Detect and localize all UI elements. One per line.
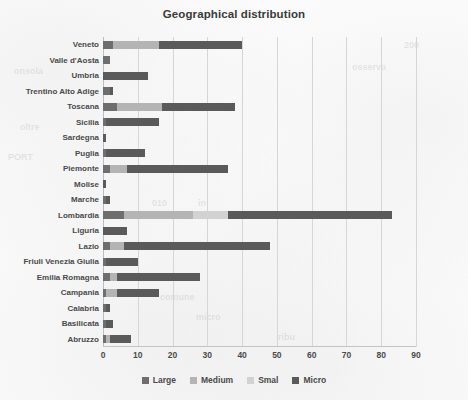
plot-area — [103, 37, 416, 347]
x-tick-label-60: 60 — [307, 350, 316, 360]
stacked-bar[interactable] — [103, 134, 106, 142]
bar-row — [103, 254, 416, 270]
bar-row — [103, 285, 416, 301]
bar-segment-micro[interactable] — [103, 180, 106, 188]
x-tick-label-50: 50 — [272, 350, 281, 360]
bar-segment-medium[interactable] — [124, 211, 194, 219]
bar-segment-micro[interactable] — [106, 196, 109, 204]
stacked-bar[interactable] — [103, 87, 113, 95]
bar-segment-large[interactable] — [103, 103, 117, 111]
bar-segment-micro[interactable] — [162, 103, 235, 111]
bar-row — [103, 208, 416, 224]
bar-row — [103, 332, 416, 348]
bar-segment-micro[interactable] — [159, 41, 242, 49]
x-tick-label-20: 20 — [168, 350, 177, 360]
bar-row — [103, 130, 416, 146]
legend-label: Medium — [201, 375, 233, 385]
bar-segment-micro[interactable] — [127, 165, 228, 173]
x-tick-label-40: 40 — [237, 350, 246, 360]
legend-item-large[interactable]: Large — [142, 375, 176, 385]
y-axis-label: Sicilia — [0, 118, 99, 127]
bar-segment-micro[interactable] — [106, 149, 144, 157]
stacked-bar[interactable] — [103, 227, 127, 235]
stacked-bar[interactable] — [103, 196, 110, 204]
bar-segment-medium[interactable] — [110, 242, 124, 250]
bar-segment-large[interactable] — [103, 87, 110, 95]
bar-row — [103, 192, 416, 208]
bar-segment-large[interactable] — [103, 165, 110, 173]
bar-row — [103, 316, 416, 332]
stacked-bar[interactable] — [103, 118, 159, 126]
bar-segment-medium[interactable] — [110, 273, 117, 281]
bar-segment-micro[interactable] — [228, 211, 391, 219]
bar-segment-micro[interactable] — [106, 304, 109, 312]
bar-segment-micro[interactable] — [117, 273, 200, 281]
bar-segment-micro[interactable] — [124, 242, 270, 250]
bar-segment-large[interactable] — [103, 211, 124, 219]
stacked-bar[interactable] — [103, 289, 159, 297]
legend-swatch-icon — [292, 377, 299, 384]
stacked-bar[interactable] — [103, 72, 148, 80]
bar-row — [103, 177, 416, 193]
stacked-bar[interactable] — [103, 242, 270, 250]
stacked-bar[interactable] — [103, 180, 106, 188]
bar-segment-medium[interactable] — [106, 289, 116, 297]
bar-row — [103, 99, 416, 115]
bar-row — [103, 270, 416, 286]
x-tick-label-80: 80 — [376, 350, 385, 360]
legend-swatch-icon — [190, 377, 197, 384]
bar-segment-micro[interactable] — [106, 320, 113, 328]
bar-segment-medium[interactable] — [117, 103, 162, 111]
bar-row — [103, 146, 416, 162]
bar-segment-micro[interactable] — [117, 289, 159, 297]
stacked-bar[interactable] — [103, 320, 113, 328]
legend-swatch-icon — [247, 377, 254, 384]
stacked-bar[interactable] — [103, 211, 392, 219]
y-axis-label: Umbria — [0, 71, 99, 80]
x-tick-label-70: 70 — [342, 350, 351, 360]
y-axis-category-labels: VenetoValle d'AostaUmbriaTrentino Alto A… — [0, 37, 99, 347]
stacked-bar[interactable] — [103, 258, 138, 266]
legend-item-medium[interactable]: Medium — [190, 375, 233, 385]
y-axis-label: Lombardia — [0, 211, 99, 220]
bar-segment-micro[interactable] — [106, 258, 137, 266]
stacked-bar[interactable] — [103, 56, 110, 64]
stacked-bar[interactable] — [103, 273, 200, 281]
bar-segment-medium[interactable] — [113, 41, 158, 49]
y-axis-label: Abruzzo — [0, 335, 99, 344]
bar-segment-large[interactable] — [103, 41, 113, 49]
bar-segment-large[interactable] — [103, 242, 110, 250]
stacked-bar[interactable] — [103, 165, 228, 173]
bar-segment-large[interactable] — [103, 56, 110, 64]
bar-segment-micro[interactable] — [103, 134, 106, 142]
stacked-bar[interactable] — [103, 103, 235, 111]
bar-segment-micro[interactable] — [103, 227, 127, 235]
bar-segment-micro[interactable] — [110, 87, 113, 95]
stacked-bar[interactable] — [103, 335, 131, 343]
bar-row — [103, 37, 416, 53]
legend-item-smal[interactable]: Smal — [247, 375, 278, 385]
y-axis-label: Puglia — [0, 149, 99, 158]
stacked-bar[interactable] — [103, 149, 145, 157]
y-axis-label: Liguria — [0, 226, 99, 235]
x-axis-tick-labels: 0102030405060708090 — [103, 350, 416, 364]
bar-segment-large[interactable] — [103, 273, 110, 281]
y-axis-label: Trentino Alto Adige — [0, 87, 99, 96]
bar-segment-micro[interactable] — [110, 335, 131, 343]
bar-segment-medium[interactable] — [110, 165, 127, 173]
legend-label: Smal — [258, 375, 278, 385]
bar-row — [103, 223, 416, 239]
x-tick-label-90: 90 — [411, 350, 420, 360]
bar-row — [103, 301, 416, 317]
bar-segment-smal[interactable] — [193, 211, 228, 219]
chart-title: Geographical distribution — [0, 8, 468, 20]
stacked-bar[interactable] — [103, 304, 110, 312]
bar-row — [103, 68, 416, 84]
legend-label: Micro — [303, 375, 326, 385]
bar-segment-micro[interactable] — [106, 118, 158, 126]
stacked-bar[interactable] — [103, 41, 242, 49]
bar-segment-micro[interactable] — [103, 72, 148, 80]
legend-label: Large — [153, 375, 176, 385]
legend-item-micro[interactable]: Micro — [292, 375, 326, 385]
gridline-90 — [416, 37, 417, 347]
